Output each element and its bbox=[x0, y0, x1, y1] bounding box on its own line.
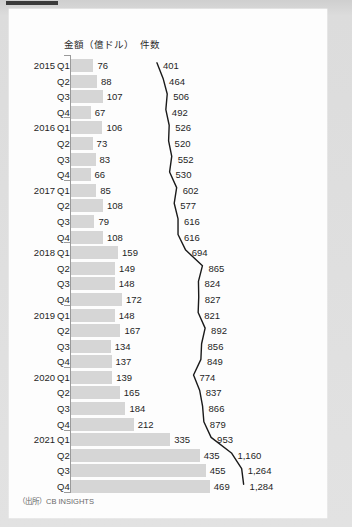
quarter-label: Q1 bbox=[57, 247, 71, 258]
chart-row: Q4212879 bbox=[9, 414, 327, 430]
chart-row: 2020Q1139774 bbox=[9, 367, 327, 383]
quarter-label: Q4 bbox=[57, 356, 71, 367]
count-value-label: 953 bbox=[217, 434, 233, 445]
amount-value-label: 139 bbox=[116, 372, 132, 383]
quarter-label: Q2 bbox=[57, 325, 71, 336]
amount-value-label: 469 bbox=[214, 481, 230, 492]
amount-value-label: 79 bbox=[98, 216, 109, 227]
amount-value-label: 108 bbox=[107, 232, 123, 243]
count-value-label: 837 bbox=[206, 387, 222, 398]
count-value-label: 827 bbox=[205, 294, 221, 305]
quarter-label: Q2 bbox=[57, 138, 71, 149]
amount-column-header: 金額（億ドル） bbox=[64, 37, 134, 51]
count-value-label: 616 bbox=[184, 216, 200, 227]
count-value-label: 694 bbox=[192, 247, 208, 258]
amount-value-label: 106 bbox=[106, 122, 122, 133]
amount-value-label: 148 bbox=[119, 278, 135, 289]
quarter-label: Q1 bbox=[57, 310, 71, 321]
quarter-label: Q2 bbox=[57, 76, 71, 87]
quarter-label: Q2 bbox=[57, 200, 71, 211]
amount-value-label: 137 bbox=[116, 356, 132, 367]
quarter-label: Q3 bbox=[57, 154, 71, 165]
chart-row: Q3184866 bbox=[9, 398, 327, 414]
chart-row: 2019Q1148821 bbox=[9, 305, 327, 321]
count-value-label: 577 bbox=[180, 200, 196, 211]
quarter-label: Q1 bbox=[57, 185, 71, 196]
year-label: 2017 bbox=[9, 185, 55, 196]
count-value-label: 1,284 bbox=[250, 481, 274, 492]
quarter-label: Q2 bbox=[57, 450, 71, 461]
chart-row: Q4172827 bbox=[9, 289, 327, 305]
chart-row: Q2108577 bbox=[9, 195, 327, 211]
amount-value-label: 212 bbox=[138, 419, 154, 430]
amount-value-label: 76 bbox=[97, 60, 108, 71]
chart-row: Q3148824 bbox=[9, 273, 327, 289]
count-value-label: 526 bbox=[175, 122, 191, 133]
count-value-label: 866 bbox=[209, 403, 225, 414]
count-value-label: 520 bbox=[175, 138, 191, 149]
count-value-label: 849 bbox=[207, 356, 223, 367]
amount-value-label: 435 bbox=[204, 450, 220, 461]
year-label: 2015 bbox=[9, 60, 55, 71]
quarter-label: Q1 bbox=[57, 434, 71, 445]
quarter-label: Q1 bbox=[57, 372, 71, 383]
amount-value-label: 335 bbox=[174, 434, 190, 445]
amount-value-label: 67 bbox=[95, 107, 106, 118]
amount-value-label: 108 bbox=[107, 200, 123, 211]
chart-rows: 2015Q176401Q288464Q3107506Q4674922016Q11… bbox=[9, 55, 327, 492]
amount-value-label: 66 bbox=[95, 169, 106, 180]
quarter-label: Q3 bbox=[57, 278, 71, 289]
count-value-label: 602 bbox=[183, 185, 199, 196]
year-label: 2018 bbox=[9, 247, 55, 258]
count-value-label: 552 bbox=[178, 154, 194, 165]
amount-value-label: 167 bbox=[124, 325, 140, 336]
quarter-label: Q4 bbox=[57, 232, 71, 243]
quarter-label: Q3 bbox=[57, 465, 71, 476]
amount-value-label: 85 bbox=[100, 185, 111, 196]
chart-card: 金額（億ドル） 件数 2015Q176401Q288464Q3107506Q46… bbox=[9, 9, 327, 518]
chart-row: Q2167892 bbox=[9, 320, 327, 336]
count-value-label: 530 bbox=[176, 169, 192, 180]
chart-row: 2017Q185602 bbox=[9, 180, 327, 196]
quarter-label: Q2 bbox=[57, 387, 71, 398]
amount-value-label: 148 bbox=[119, 310, 135, 321]
quarter-label: Q4 bbox=[57, 294, 71, 305]
count-value-label: 821 bbox=[204, 310, 220, 321]
quarter-label: Q4 bbox=[57, 169, 71, 180]
year-label: 2019 bbox=[9, 310, 55, 321]
amount-bar bbox=[71, 480, 210, 493]
count-value-label: 879 bbox=[210, 419, 226, 430]
count-value-label: 506 bbox=[173, 91, 189, 102]
chart-row: Q288464 bbox=[9, 71, 327, 87]
amount-value-label: 159 bbox=[122, 247, 138, 258]
quarter-label: Q3 bbox=[57, 91, 71, 102]
chart-row: Q466530 bbox=[9, 164, 327, 180]
amount-value-label: 73 bbox=[97, 138, 108, 149]
count-value-label: 865 bbox=[208, 263, 224, 274]
quarter-label: Q3 bbox=[57, 216, 71, 227]
count-value-label: 856 bbox=[208, 341, 224, 352]
amount-value-label: 83 bbox=[100, 154, 111, 165]
quarter-label: Q4 bbox=[57, 419, 71, 430]
count-value-label: 401 bbox=[163, 60, 179, 71]
chart-row: Q4137849 bbox=[9, 351, 327, 367]
count-value-label: 464 bbox=[169, 76, 185, 87]
chart-row: Q379616 bbox=[9, 211, 327, 227]
count-value-label: 1,264 bbox=[248, 465, 272, 476]
chart-row: Q34551,264 bbox=[9, 460, 327, 476]
year-label: 2021 bbox=[9, 434, 55, 445]
chart-row: Q467492 bbox=[9, 102, 327, 118]
chart-row: Q383552 bbox=[9, 149, 327, 165]
count-value-label: 1,160 bbox=[237, 450, 261, 461]
quarter-label: Q2 bbox=[57, 263, 71, 274]
quarterly-funding-chart: 金額（億ドル） 件数 2015Q176401Q288464Q3107506Q46… bbox=[9, 9, 327, 518]
count-column-header: 件数 bbox=[140, 37, 160, 51]
chart-row: Q2149865 bbox=[9, 258, 327, 274]
chart-row: Q24351,160 bbox=[9, 445, 327, 461]
count-value-label: 824 bbox=[204, 278, 220, 289]
chart-row: 2015Q176401 bbox=[9, 55, 327, 71]
axis-tick bbox=[64, 492, 71, 493]
amount-value-label: 184 bbox=[129, 403, 145, 414]
count-value-label: 774 bbox=[200, 372, 216, 383]
chart-row: Q273520 bbox=[9, 133, 327, 149]
